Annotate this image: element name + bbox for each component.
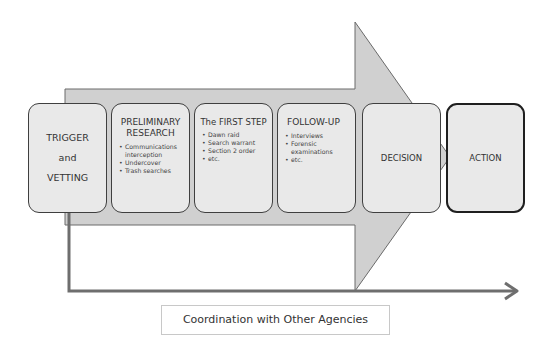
stage-decision: DECISION <box>362 103 441 213</box>
stage-item: Search warrant <box>202 139 269 147</box>
stage-item: Interviews <box>285 132 352 140</box>
stage-title: The FIRST STEP <box>195 117 272 127</box>
stage-follow-up: FOLLOW-UP Interviews Forensic examinatio… <box>277 103 356 213</box>
stage-items: Communications interception Undercover T… <box>112 143 189 175</box>
coordination-label: Coordination with Other Agencies <box>161 305 390 335</box>
stage-item: Communications interception <box>119 143 186 159</box>
stage-title-line: VETTING <box>29 168 106 188</box>
stage-action: ACTION <box>446 103 525 213</box>
stage-trigger-vetting: TRIGGER and VETTING <box>28 103 107 213</box>
stage-item: Trash searches <box>119 167 186 175</box>
stage-title: PRELIMINARY RESEARCH <box>112 117 189 139</box>
stage-item: Undercover <box>119 159 186 167</box>
stage-item: etc. <box>285 156 352 164</box>
stage-item: etc. <box>202 155 269 163</box>
stage-item: Dawn raid <box>202 131 269 139</box>
stage-items: Dawn raid Search warrant Section 2 order… <box>195 131 272 163</box>
stage-title-line: TRIGGER <box>29 128 106 148</box>
stage-item: Forensic examinations <box>285 140 352 156</box>
stage-title-line: and <box>29 148 106 168</box>
stage-preliminary-research: PRELIMINARY RESEARCH Communications inte… <box>111 103 190 213</box>
stage-items: Interviews Forensic examinations etc. <box>278 132 355 164</box>
stage-item: Section 2 order <box>202 147 269 155</box>
stage-title: ACTION <box>448 151 523 165</box>
stage-title: FOLLOW-UP <box>278 117 355 128</box>
stage-first-step: The FIRST STEP Dawn raid Search warrant … <box>194 103 273 213</box>
stage-title: DECISION <box>363 151 440 165</box>
